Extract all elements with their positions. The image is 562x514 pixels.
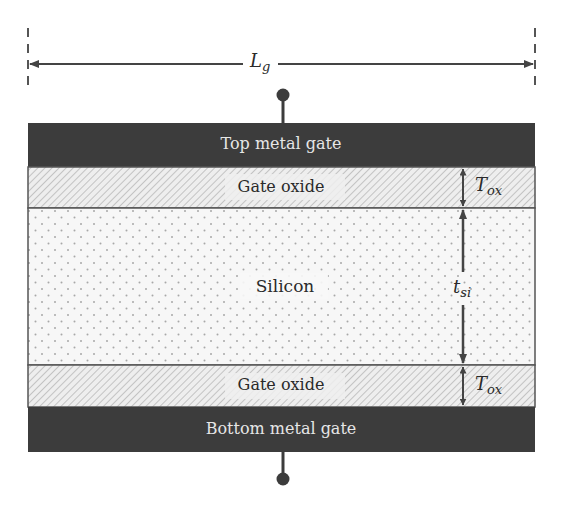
gate-length-extent-lines xyxy=(28,28,535,88)
bottom-metal-gate-label: Bottom metal gate xyxy=(0,419,562,438)
silicon-thickness-label: tsi xyxy=(453,276,471,300)
bottom-oxide-thickness-label: Tox xyxy=(475,373,502,397)
bottom-gate-terminal xyxy=(277,452,290,486)
silicon-label: Silicon xyxy=(0,276,562,296)
gate-length-label: Lg xyxy=(250,50,270,74)
top-metal-gate-label: Top metal gate xyxy=(0,134,562,153)
top-gate-terminal xyxy=(277,89,290,124)
top-oxide-thickness-label: Tox xyxy=(475,174,502,198)
